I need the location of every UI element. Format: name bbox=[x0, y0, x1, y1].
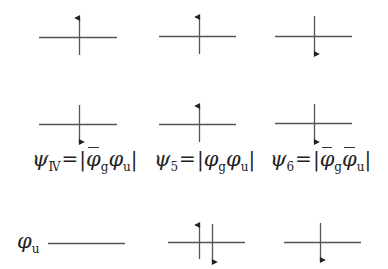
phi-u-bar: φ bbox=[342, 149, 357, 170]
psi-symbol: ψ bbox=[270, 147, 286, 171]
psi-symbol: ψ bbox=[32, 147, 48, 171]
configuration-row2-col3 bbox=[275, 104, 352, 142]
phi-subscript-g: g bbox=[334, 160, 342, 174]
psi-subscript: 5 bbox=[170, 160, 178, 174]
label-orbital-u: φu bbox=[17, 231, 39, 252]
determinant-bar-left: | bbox=[79, 147, 86, 171]
configuration-row2-col2 bbox=[159, 106, 236, 142]
determinant-bar-left: | bbox=[197, 147, 204, 171]
configuration-row3-col3 bbox=[284, 223, 361, 260]
equals-sign: = bbox=[179, 147, 196, 171]
label-psi-5: ψ5=|φgφu| bbox=[154, 149, 255, 170]
phi-subscript-u: u bbox=[241, 160, 249, 174]
determinant-bar-right: | bbox=[131, 147, 138, 171]
phi-symbol: φ bbox=[17, 229, 32, 253]
phi-u: φ bbox=[226, 147, 241, 171]
configuration-row1-col1 bbox=[39, 18, 117, 55]
determinant-bar-right: | bbox=[248, 147, 255, 171]
equals-sign: = bbox=[61, 147, 78, 171]
psi-symbol: ψ bbox=[154, 147, 170, 171]
phi-subscript-g: g bbox=[218, 160, 226, 174]
determinant-bar-left: | bbox=[313, 147, 320, 171]
determinant-bar-right: | bbox=[364, 147, 371, 171]
phi-subscript-g: g bbox=[101, 160, 109, 174]
phi-g-bar: φ bbox=[86, 149, 101, 170]
psi-subscript: Ⅳ bbox=[48, 160, 60, 174]
label-psi-4: ψⅣ=|φgφu| bbox=[32, 149, 138, 170]
configuration-row3-col2 bbox=[168, 224, 245, 262]
phi-subscript-u: u bbox=[32, 242, 40, 256]
phi-g: φ bbox=[204, 147, 219, 171]
label-psi-6: ψ6=|φgφu| bbox=[270, 149, 371, 170]
equals-sign: = bbox=[295, 147, 312, 171]
psi-subscript: 6 bbox=[286, 160, 294, 174]
phi-subscript-u: u bbox=[123, 160, 131, 174]
configuration-row1-col3 bbox=[275, 16, 352, 54]
phi-subscript-u: u bbox=[357, 160, 365, 174]
phi-u: φ bbox=[108, 147, 123, 171]
configuration-row2-col1 bbox=[39, 105, 117, 142]
mo-diagram: ψⅣ=|φgφu| ψ5=|φgφu| ψ6=|φgφu| φu bbox=[0, 0, 388, 269]
orbital-diagram-canvas bbox=[0, 0, 388, 269]
phi-g-bar: φ bbox=[320, 149, 335, 170]
configuration-row1-col2 bbox=[159, 17, 236, 54]
